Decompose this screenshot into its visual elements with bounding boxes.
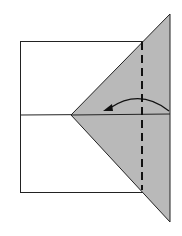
origami-diagram bbox=[0, 0, 182, 236]
